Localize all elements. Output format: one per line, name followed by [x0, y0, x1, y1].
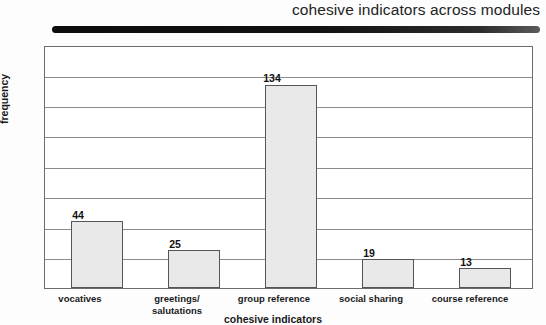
bar-value-course-reference: 13	[432, 256, 500, 268]
bar-value-social-sharing: 19	[335, 247, 403, 259]
x-tick-vocatives-line1: vocatives	[58, 293, 101, 304]
x-tick-vocatives: vocatives	[36, 293, 124, 305]
x-tick-group-reference-line1: group reference	[238, 293, 310, 304]
x-tick-social-sharing-line1: social sharing	[339, 293, 403, 304]
bar-social-sharing[interactable]	[362, 259, 414, 288]
bar-group-reference[interactable]	[265, 85, 317, 289]
bar-value-vocatives: 44	[44, 209, 112, 221]
bar-vocatives[interactable]	[71, 221, 123, 288]
x-tick-social-sharing: social sharing	[327, 293, 415, 305]
bar-greetings[interactable]	[168, 250, 220, 288]
y-axis-title: frequency	[0, 74, 10, 124]
chart-page: cohesive indicators across modules 160 1…	[0, 0, 546, 325]
title-divider-rule	[52, 26, 540, 33]
bar-course-reference[interactable]	[459, 268, 511, 288]
x-tick-greetings-line1: greetings/	[154, 293, 199, 304]
x-tick-course-reference: course reference	[424, 293, 516, 305]
bar-value-greetings: 25	[141, 238, 209, 250]
x-tick-group-reference: group reference	[230, 293, 318, 305]
bar-value-group-reference: 134	[238, 72, 306, 84]
x-tick-course-reference-line1: course reference	[432, 293, 509, 304]
x-axis-title: cohesive indicators	[0, 313, 546, 325]
chart-title: cohesive indicators across modules	[0, 1, 540, 19]
